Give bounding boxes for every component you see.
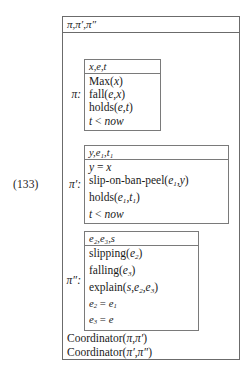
outer-drs-conditions: π: x,e,t Max(x) fall(e,x) holds(e,t) t <… [63,33,239,359]
drs-box-pi-condition-list: Max(x) fall(e,x) holds(e,t) t < now [85,74,160,130]
drs-label-pi-prime: π′: [63,179,84,191]
drs-row-pi-prime: π′: y,e₁,t₁ y = x slip-on-ban-peel(e1,y)… [63,145,229,224]
outer-drs-box: π,π′,π″ π: x,e,t Max(x) fall(e,x) holds(… [62,16,240,360]
coordinator-relation: Coordinator(π′,π″) [67,345,237,359]
drs-box-pi-prime: y,e₁,t₁ y = x slip-on-ban-peel(e1,y) hol… [84,145,229,224]
drs-box-pi-double-prime-universe: e₂,e₃,s [85,232,198,246]
drs-row-pi: π: x,e,t Max(x) fall(e,x) holds(e,t) t <… [63,59,161,131]
drs-condition: t < now [89,208,228,221]
drs-condition: holds(e1,t1) [89,191,228,208]
drs-condition: slipping(e2) [89,247,198,264]
drs-condition: y = x [89,161,228,174]
equation-number: (133) [13,178,38,190]
drs-box-pi-prime-condition-list: y = x slip-on-ban-peel(e1,y) holds(e1,t1… [85,160,228,223]
drs-row-pi-double-prime: π″: e₂,e₃,s slipping(e2) falling(e3) exp… [63,231,199,331]
drs-condition: falling(e3) [89,264,198,281]
drs-label-pi-double-prime: π″: [63,275,84,287]
drs-label-pi: π: [63,89,84,101]
drs-condition: Max(x) [89,75,160,88]
drs-condition: e3 = e [89,313,198,328]
drs-box-pi-double-prime-condition-list: slipping(e2) falling(e3) explain(s,e2,e3… [85,246,198,330]
drs-condition: t < now [89,115,160,128]
coordinator-relations: Coordinator(π,π′) Coordinator(π′,π″) [67,331,237,359]
drs-condition: explain(s,e2,e3) [89,281,198,298]
drs-box-pi-double-prime: e₂,e₃,s slipping(e2) falling(e3) explain… [84,231,199,331]
drs-condition: e2 = e1 [89,297,198,312]
drs-condition: slip-on-ban-peel(e1,y) [89,174,228,191]
coordinator-relation: Coordinator(π,π′) [67,331,237,345]
drs-box-pi-universe: x,e,t [85,60,160,74]
drs-condition: fall(e,x) [89,88,160,101]
drs-box-pi: x,e,t Max(x) fall(e,x) holds(e,t) t < no… [84,59,161,131]
drs-box-pi-prime-universe: y,e₁,t₁ [85,146,228,160]
outer-drs-universe: π,π′,π″ [63,17,239,33]
drs-condition: holds(e,t) [89,101,160,114]
